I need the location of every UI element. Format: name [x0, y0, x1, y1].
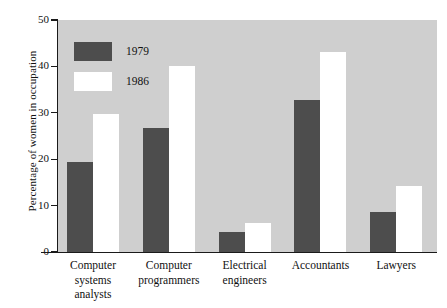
bar-1986-1: [93, 114, 119, 252]
bar-1979-1: [67, 162, 93, 252]
category-label-line: engineers: [195, 273, 295, 288]
y-tick-40: [51, 66, 58, 67]
legend-swatch-1986: [74, 72, 112, 91]
y-tick-label-50: 50: [0, 14, 49, 25]
y-tick-20: [51, 159, 58, 160]
legend-swatch-1979: [74, 42, 112, 61]
y-tick-0: [51, 251, 58, 252]
bar-1986-5: [396, 186, 422, 252]
bar-1979-4: [294, 100, 320, 252]
y-tick-label-30: 30: [0, 107, 49, 118]
bar-1979-3: [219, 232, 245, 252]
bar-1979-2: [143, 128, 169, 252]
y-axis-line: [57, 19, 58, 253]
category-label-line: Lawyers: [346, 258, 446, 273]
legend-label-1986: 1986: [126, 75, 149, 87]
y-tick-30: [51, 112, 58, 113]
y-tick-label-20: 20: [0, 153, 49, 164]
y-tick-50: [51, 19, 58, 20]
bar-chart: Percentage of women in occupation 010203…: [0, 0, 447, 308]
bar-1986-2: [169, 66, 195, 252]
y-tick-label-40: 40: [0, 60, 49, 71]
bar-1979-5: [370, 212, 396, 252]
y-tick-10: [51, 205, 58, 206]
legend-label-1979: 1979: [126, 45, 149, 57]
x-axis-line: [41, 252, 437, 253]
bar-1986-3: [245, 223, 271, 252]
category-label-5: Lawyers: [346, 258, 446, 273]
category-label-line: analysts: [43, 287, 143, 302]
bar-1986-4: [320, 52, 346, 252]
y-tick-label-10: 10: [0, 200, 49, 211]
y-tick-label-0: 0: [0, 246, 49, 257]
